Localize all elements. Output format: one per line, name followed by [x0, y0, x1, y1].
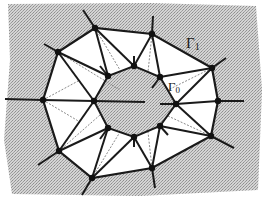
node-dot — [92, 25, 98, 31]
node-dot — [209, 65, 215, 71]
node-dot — [105, 73, 111, 79]
node-dot — [105, 125, 111, 131]
node-dot — [208, 133, 214, 139]
node-dot — [89, 175, 95, 181]
spoke-edge — [94, 101, 145, 102]
node-dot — [55, 49, 61, 55]
node-dot — [173, 101, 179, 107]
node-dot — [157, 74, 163, 80]
mesh-edge — [43, 100, 94, 101]
node-dot — [215, 98, 221, 104]
node-dot — [149, 165, 155, 171]
node-dot — [40, 97, 46, 103]
spoke-edge — [5, 99, 43, 100]
node-dot — [131, 63, 137, 69]
mesh-diagram: Γ1 Γ0 — [0, 0, 264, 200]
node-dot — [56, 148, 62, 154]
node-dot — [149, 31, 155, 37]
node-dot — [131, 134, 137, 140]
node-dot — [157, 123, 163, 129]
node-dot — [91, 98, 97, 104]
